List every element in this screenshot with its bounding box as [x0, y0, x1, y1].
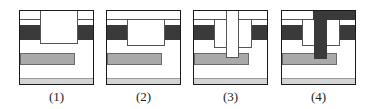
lower-conductor	[20, 53, 75, 65]
panel-label-1: (1)	[19, 89, 94, 105]
substrate-layer	[20, 78, 93, 84]
panel-3	[193, 10, 268, 85]
substrate-layer	[282, 78, 355, 84]
lower-conductor	[107, 53, 162, 65]
dark-layer-right	[77, 25, 93, 40]
via-hole	[226, 10, 239, 58]
panel-label-3: (3)	[193, 89, 268, 105]
dark-layer-left	[194, 25, 214, 40]
dark-layer-right	[339, 25, 355, 40]
panel-1	[19, 10, 94, 85]
lower-conductor	[194, 53, 249, 65]
trench	[127, 19, 165, 46]
substrate-layer	[107, 78, 180, 84]
dark-layer-left	[107, 25, 127, 40]
panel-4	[281, 10, 356, 85]
panel-label-2: (2)	[106, 89, 181, 105]
dark-layer-left	[282, 25, 302, 40]
lower-conductor	[282, 53, 337, 65]
substrate-layer	[194, 78, 267, 84]
panel-label-4: (4)	[281, 89, 356, 105]
dark-layer-right	[164, 25, 180, 40]
dark-layer-right	[251, 25, 267, 40]
metal-via-plug	[314, 11, 327, 59]
panel-2	[106, 10, 181, 85]
trench	[40, 10, 78, 44]
dark-layer-left	[20, 25, 40, 40]
